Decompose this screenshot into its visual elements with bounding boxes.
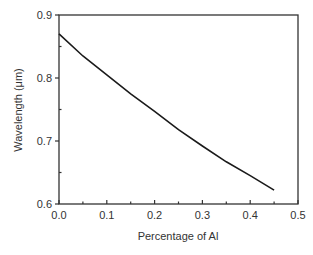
x-tick-label: 0.2: [147, 209, 162, 221]
y-axis-label: Wavelength (μm): [12, 68, 24, 152]
x-tick-label: 0.3: [195, 209, 210, 221]
data-line: [59, 34, 274, 190]
x-tick-label: 0.5: [290, 209, 305, 221]
x-tick-labels: 0.00.10.20.30.40.5: [51, 209, 305, 221]
x-tick-label: 0.4: [243, 209, 258, 221]
line-chart: 0.00.10.20.30.40.5 0.60.70.80.9 Percenta…: [0, 0, 313, 255]
y-tick-label: 0.6: [37, 198, 52, 210]
x-tick-label: 0.1: [99, 209, 114, 221]
x-tick-label: 0.0: [51, 209, 66, 221]
y-tick-labels: 0.60.70.80.9: [37, 9, 52, 210]
y-tick-label: 0.7: [37, 135, 52, 147]
y-tick-label: 0.8: [37, 72, 52, 84]
x-axis-label: Percentage of Al: [138, 230, 219, 242]
y-tick-label: 0.9: [37, 9, 52, 21]
plot-frame: [59, 15, 298, 204]
axis-ticks: [55, 15, 298, 204]
